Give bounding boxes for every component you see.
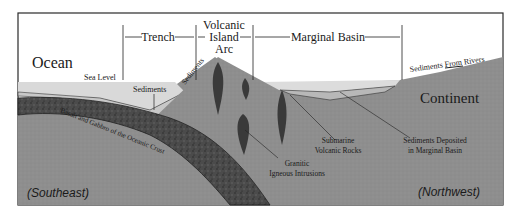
trench-sediments-label: Sediments [133, 85, 166, 94]
ocean-label: Ocean [32, 54, 73, 71]
northwest-label: (Northwest) [418, 185, 480, 199]
zone-label-marginal-basin: Marginal Basin [291, 30, 365, 44]
granitic-label-1: Granitic [285, 159, 310, 168]
zone-label-arc-3: Arc [215, 42, 233, 56]
zone-label-trench: Trench [141, 30, 175, 44]
deposited-label-2: in Marginal Basin [408, 146, 462, 155]
deposited-label-1: Sediments Deposited [403, 136, 467, 145]
subduction-diagram: Basalt and Gabbro of the Oceanic Crust T… [0, 0, 521, 214]
granitic-label-2: Igneous Intrusions [269, 169, 325, 178]
submarine-label-2: Volcanic Rocks [315, 146, 362, 155]
submarine-label-1: Submarine [322, 136, 355, 145]
continent-label: Continent [420, 90, 480, 106]
sea-level-label: Sea Level [84, 73, 117, 82]
southeast-label: (Southeast) [27, 186, 89, 200]
